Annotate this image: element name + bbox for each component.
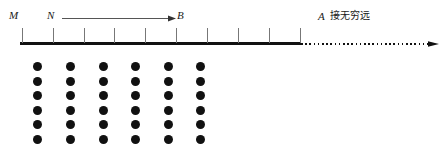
grid-dot	[164, 62, 173, 71]
axis-tick	[238, 28, 239, 43]
axis-tick	[114, 28, 115, 43]
grid-dot	[164, 120, 173, 129]
axis-arrowhead-icon	[428, 39, 439, 49]
grid-dot	[33, 91, 42, 100]
axis-label-a: A	[318, 11, 325, 22]
grid-dot	[131, 106, 140, 115]
grid-dot	[99, 120, 108, 129]
grid-dot	[33, 106, 42, 115]
direction-arrow-n-to-b	[62, 14, 176, 23]
axis-tick	[84, 28, 85, 43]
grid-dot	[99, 77, 108, 86]
grid-dot	[196, 135, 205, 144]
axis-tick	[207, 28, 208, 43]
axis-label-m: M	[9, 10, 18, 21]
grid-dot	[99, 135, 108, 144]
grid-dot	[99, 62, 108, 71]
figure-canvas: M N B A 接无穷远	[0, 0, 445, 161]
grid-dot	[164, 91, 173, 100]
axis-tick	[176, 28, 177, 43]
grid-dot	[164, 77, 173, 86]
grid-dot	[66, 91, 75, 100]
axis-solid-segment	[20, 42, 301, 45]
grid-dot	[196, 77, 205, 86]
axis-tick	[145, 28, 146, 43]
grid-dot	[33, 120, 42, 129]
grid-dot	[131, 135, 140, 144]
grid-dot	[196, 62, 205, 71]
grid-dot	[131, 120, 140, 129]
axis-label-b: B	[177, 10, 184, 21]
grid-dot	[164, 135, 173, 144]
axis-dotted-segment	[301, 43, 429, 45]
grid-dot	[99, 106, 108, 115]
grid-dot	[66, 120, 75, 129]
grid-dot	[131, 77, 140, 86]
grid-dot	[66, 77, 75, 86]
grid-dot	[66, 62, 75, 71]
grid-dot	[33, 62, 42, 71]
grid-dot	[196, 106, 205, 115]
grid-dot	[196, 91, 205, 100]
axis-tick	[269, 28, 270, 43]
infinity-annotation-text: 接无穷远	[330, 11, 370, 21]
grid-dot	[66, 106, 75, 115]
axis-tick	[300, 28, 301, 43]
grid-dot	[33, 77, 42, 86]
grid-dot	[164, 106, 173, 115]
axis-tick	[53, 28, 54, 43]
grid-dot	[99, 91, 108, 100]
grid-dot	[131, 91, 140, 100]
axis-label-n: N	[47, 10, 54, 21]
grid-dot	[196, 120, 205, 129]
grid-dot	[66, 135, 75, 144]
axis-tick	[22, 28, 23, 43]
grid-dot	[33, 135, 42, 144]
grid-dot	[131, 62, 140, 71]
